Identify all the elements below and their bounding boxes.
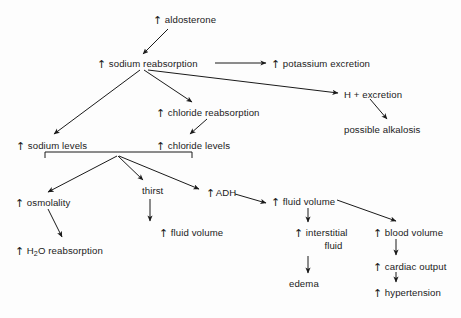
node-label: osmolality <box>27 197 71 208</box>
node-label: cardiac output <box>385 261 447 272</box>
node-cardiac-output: ↑cardiac output <box>373 261 447 273</box>
node-possible-alkalosis: possible alkalosis <box>344 124 420 135</box>
node-thirst: thirst <box>142 185 163 196</box>
node-label: potassium excretion <box>283 58 370 69</box>
up-arrow-icon: ↑ <box>294 228 303 239</box>
up-arrow-icon: ↑ <box>16 141 25 152</box>
edge-sodium-reabsorption-to-sodium-levels <box>54 70 140 134</box>
node-label: chloride levels <box>168 140 230 151</box>
node-chloride-levels: ↑chloride levels <box>156 140 230 152</box>
up-arrow-icon: ↑ <box>271 59 280 70</box>
node-chloride-reabsorption: ↑chloride reabsorption <box>156 107 260 119</box>
node-label: sodium reabsorption <box>109 58 198 69</box>
node-fluid-volume-thirst: ↑fluid volume <box>159 227 223 239</box>
node-label: fluid volume <box>171 227 223 238</box>
node-label: aldosterone <box>165 14 216 25</box>
node-sodium-reabsorption: ↑sodium reabsorption <box>97 58 198 70</box>
node-h2o-reabsorption: ↑H2O reabsorption <box>15 245 103 259</box>
node-interstitial-fluid: ↑interstitial fluid <box>294 227 366 252</box>
up-arrow-icon: ↑ <box>373 288 382 299</box>
up-arrow-icon: ↑ <box>271 197 280 208</box>
node-label: thirst <box>142 185 163 196</box>
node-edema: edema <box>289 278 319 289</box>
edge-bracket-to-thirst <box>118 156 143 180</box>
flowchart-diagram: ↑aldosterone ↑sodium reabsorption ↑potas… <box>0 0 461 318</box>
levels-bracket <box>45 152 192 158</box>
node-blood-volume: ↑blood volume <box>373 227 443 239</box>
edge-sodium-reabsorption-to-h-excretion <box>148 70 338 93</box>
node-aldosterone: ↑aldosterone <box>153 14 216 26</box>
up-arrow-icon: ↑ <box>159 228 168 239</box>
edge-aldosterone-to-sodium-reabsorption <box>143 29 168 54</box>
edge-h-excretion-to-possible-alkalosis <box>370 99 387 119</box>
up-arrow-icon: ↑ <box>373 262 382 273</box>
h2o-formula: H2O <box>27 245 46 256</box>
node-h-excretion: H + excretion <box>344 89 402 100</box>
edge-bracket-to-osmolality <box>48 156 117 192</box>
node-label: interstitial <box>306 227 348 238</box>
up-arrow-icon: ↑ <box>206 188 215 199</box>
node-potassium-excretion: ↑potassium excretion <box>271 58 370 70</box>
node-osmolality: ↑osmolality <box>15 197 70 209</box>
node-label: ADH <box>216 187 237 198</box>
node-label: possible alkalosis <box>344 124 420 135</box>
edge-fluid-volume-to-blood-volume <box>337 200 396 221</box>
node-label-line2: fluid <box>301 240 366 253</box>
edge-chloride-reabsorption-to-chloride-levels <box>190 119 207 134</box>
node-label-text: reabsorption <box>48 245 103 256</box>
node-label: H2O reabsorption <box>27 245 103 259</box>
node-fluid-volume-adh: ↑fluid volume <box>271 196 335 208</box>
up-arrow-icon: ↑ <box>156 108 165 119</box>
node-label: H + excretion <box>344 89 402 100</box>
node-label: sodium levels <box>28 140 87 151</box>
node-label: chloride reabsorption <box>168 107 260 118</box>
node-label: hypertension <box>385 287 441 298</box>
node-label: fluid volume <box>283 196 335 207</box>
edge-sodium-reabsorption-to-chloride-reabsorption <box>144 70 192 102</box>
up-arrow-icon: ↑ <box>156 141 165 152</box>
node-adh: ↑ADH <box>206 187 236 199</box>
node-label: blood volume <box>385 227 443 238</box>
up-arrow-icon: ↑ <box>153 15 162 26</box>
up-arrow-icon: ↑ <box>15 198 24 209</box>
node-hypertension: ↑hypertension <box>373 287 441 299</box>
up-arrow-icon: ↑ <box>97 59 106 70</box>
edge-osmolality-to-h2o-reabsorption <box>48 209 62 237</box>
node-sodium-levels: ↑sodium levels <box>16 140 87 152</box>
node-label: edema <box>289 278 319 289</box>
up-arrow-icon: ↑ <box>15 246 24 257</box>
up-arrow-icon: ↑ <box>373 228 382 239</box>
edge-adh-to-fluid-volume <box>235 194 266 203</box>
